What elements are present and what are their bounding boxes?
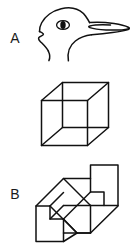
upper-ear-bill-path [89, 22, 130, 30]
cube-edge-top-right [88, 83, 109, 101]
eye-pupil [60, 21, 65, 29]
panel-c-schroder-stairs: C [0, 157, 132, 250]
head-notch-path [39, 32, 49, 52]
stairs-outer-outline [36, 165, 118, 242]
necker-cube-art [30, 75, 132, 157]
cube-edge-bottom-right [88, 128, 109, 146]
schroder-stairs-art [30, 157, 132, 250]
rabbit-duck-illusion-art [30, 0, 132, 75]
stairs-tread-lower-back [64, 219, 78, 233]
cube-edge-top-left [42, 83, 63, 101]
panel-label-a: A [0, 31, 30, 45]
panel-b-necker-cube: B [0, 75, 132, 157]
stairs-bottom-front-edge [64, 233, 78, 242]
neck-curve-path [48, 51, 49, 60]
chin-curve-path [68, 35, 92, 61]
panel-a-rabbit-duck: A [0, 0, 132, 75]
stairs-tread-upper-back [64, 179, 91, 206]
cube-edge-bottom-left [42, 128, 63, 146]
stairs-fold-upper [50, 193, 64, 207]
stairs-right-profile [91, 179, 105, 206]
ambiguous-figures-plate: A B [0, 0, 132, 250]
